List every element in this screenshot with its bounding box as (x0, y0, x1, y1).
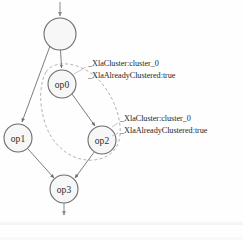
annotation-op2: _XlaCluster:cluster_0 _XlaAlreadyCluster… (119, 114, 208, 135)
graph-figure: op0 op1 op2 op3 _XlaCluster:cluster_0 _X… (0, 0, 243, 240)
annotation-op0-line1: _XlaCluster:cluster_0 (87, 59, 159, 68)
node-op2[interactable]: op2 (88, 126, 116, 154)
node-op1[interactable]: op1 (4, 124, 32, 152)
leader-line-op2 (112, 123, 118, 127)
node-op0-label: op0 (55, 80, 70, 90)
scan-artifact-band (0, 222, 243, 225)
annotation-op2-line2: _XlaAlreadyClustered:true (119, 126, 208, 135)
node-op3-label: op3 (57, 185, 72, 195)
edge-root-op0 (61, 50, 62, 68)
edge-op2-op3 (75, 151, 95, 178)
node-op2-label: op2 (95, 136, 110, 146)
edge-root-op1 (22, 46, 50, 122)
annotation-op0: _XlaCluster:cluster_0 _XlaAlreadyCluster… (87, 59, 176, 80)
leader-line-op0 (74, 67, 86, 74)
annotation-op0-line2: _XlaAlreadyClustered:true (87, 71, 176, 80)
node-root[interactable] (44, 18, 76, 50)
annotation-op2-line1: _XlaCluster:cluster_0 (119, 114, 191, 123)
graph-canvas: op0 op1 op2 op3 _XlaCluster:cluster_0 _X… (0, 0, 243, 240)
edge-op0-op2 (72, 94, 95, 126)
node-op0[interactable]: op0 (48, 70, 76, 98)
node-op1-label: op1 (11, 134, 26, 144)
edge-op1-op3 (28, 149, 54, 178)
node-root-circle (44, 18, 76, 50)
node-op3[interactable]: op3 (50, 175, 78, 203)
